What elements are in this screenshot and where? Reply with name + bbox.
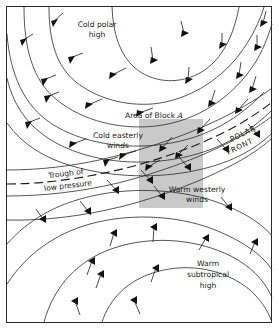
wind-barb [185, 67, 193, 84]
label-area-of-block-letter: A [177, 111, 184, 120]
label-cold-polar-high-line1: Cold polar [78, 20, 118, 29]
isobar-sub-2 [7, 217, 272, 284]
wind-barb [254, 35, 262, 51]
label-trough-line2: low pressure [43, 178, 92, 193]
label-cold-easterly-line2: winds [107, 141, 129, 150]
mask-top [0, 0, 279, 6]
wind-barb [109, 68, 126, 79]
mask-left [0, 0, 6, 330]
wind-barb [119, 151, 136, 160]
label-warm-subtropical-line1: Warm [197, 259, 219, 268]
wind-barb [85, 99, 102, 109]
wind-barb [87, 257, 95, 275]
wind-barb [41, 75, 56, 86]
label-cold-easterly-line1: Cold easterly [93, 131, 143, 140]
label-warm-westerly-line2: winds [186, 195, 208, 204]
wind-barb [36, 209, 46, 223]
diagram-canvas: Cold polar high Area of Block A Cold eas… [0, 0, 279, 330]
label-cold-polar-high-line2: high [89, 30, 106, 39]
wind-barb [80, 201, 91, 215]
wind-barb [181, 21, 189, 37]
subtropical-high-isobars [7, 190, 272, 322]
wind-barb [44, 92, 59, 103]
isobar-polar-3 [7, 34, 264, 146]
wind-barb [51, 13, 63, 27]
mask-right [273, 0, 279, 330]
label-warm-subtropical-line3: high [200, 281, 217, 290]
label-area-of-block-prefix: Area of Block [125, 111, 178, 120]
label-area-of-block: Area of Block A [125, 111, 184, 120]
wind-barb [69, 139, 86, 148]
wind-barb [150, 223, 157, 242]
wind-barb [199, 234, 209, 250]
polar-front-diagram: Cold polar high Area of Block A Cold eas… [0, 0, 279, 330]
wind-barb [130, 296, 140, 314]
wind-barb [150, 47, 158, 64]
wind-barb [236, 62, 244, 79]
wind-barb [96, 270, 104, 288]
wind-barb [71, 297, 80, 315]
label-warm-subtropical-line2: subtropical [187, 270, 229, 279]
wind-barb [68, 53, 83, 64]
wind-barb [110, 229, 117, 246]
wind-barb [250, 238, 258, 254]
wind-barb [249, 76, 257, 93]
mask-bottom [0, 323, 279, 330]
wind-barb [260, 11, 268, 27]
wind-barb [235, 99, 248, 114]
label-warm-westerly-line1: Warm westerly [169, 185, 226, 194]
